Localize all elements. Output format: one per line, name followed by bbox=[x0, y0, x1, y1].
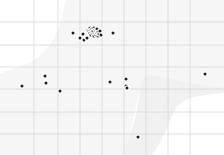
point-marker-dot[interactable] bbox=[112, 32, 115, 35]
point-marker[interactable] bbox=[19, 83, 24, 88]
point-marker[interactable] bbox=[70, 30, 75, 35]
point-marker-dot[interactable] bbox=[137, 136, 140, 139]
point-marker-dot[interactable] bbox=[44, 75, 47, 78]
point-marker-dot[interactable] bbox=[109, 81, 112, 84]
point-marker[interactable] bbox=[80, 31, 85, 36]
point-marker-dot[interactable] bbox=[45, 82, 48, 85]
map-canvas[interactable] bbox=[0, 0, 224, 155]
point-marker[interactable] bbox=[135, 134, 140, 139]
point-marker[interactable] bbox=[124, 85, 129, 90]
point-marker-dot[interactable] bbox=[79, 37, 82, 40]
point-marker[interactable] bbox=[42, 73, 47, 78]
point-marker-dot[interactable] bbox=[126, 87, 129, 90]
point-marker-dot[interactable] bbox=[100, 34, 103, 37]
point-marker-dot[interactable] bbox=[204, 73, 207, 76]
point-marker[interactable] bbox=[107, 79, 112, 84]
point-marker[interactable] bbox=[202, 71, 207, 76]
point-marker[interactable] bbox=[123, 76, 128, 81]
point-marker[interactable] bbox=[57, 88, 62, 93]
point-marker-dot[interactable] bbox=[99, 30, 102, 33]
point-marker-dot[interactable] bbox=[86, 37, 89, 40]
point-marker[interactable] bbox=[110, 30, 115, 35]
point-marker[interactable] bbox=[98, 32, 103, 37]
point-marker-dot[interactable] bbox=[82, 33, 85, 36]
point-marker-dot[interactable] bbox=[59, 90, 62, 93]
point-marker[interactable] bbox=[43, 80, 48, 85]
point-marker-dot[interactable] bbox=[21, 85, 24, 88]
point-marker-dot[interactable] bbox=[125, 78, 128, 81]
point-marker-dot[interactable] bbox=[72, 32, 75, 35]
map-container bbox=[0, 0, 224, 155]
